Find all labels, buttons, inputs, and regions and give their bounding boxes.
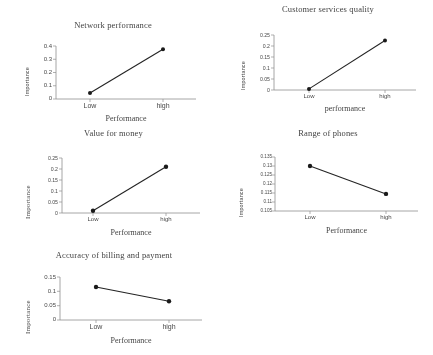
chart-title: Network performance	[18, 20, 208, 30]
series-line	[310, 166, 386, 194]
y-tick-label: 0.125	[242, 173, 272, 178]
x-tick-label-low: Low	[72, 102, 108, 109]
data-point	[383, 39, 387, 43]
y-tick-label: 0	[28, 316, 56, 322]
chart-panel-range-of-phones: Range of phones Importance 0.135 0.13 0.…	[228, 128, 428, 243]
data-point	[94, 285, 98, 289]
x-axis-label: Performance	[275, 226, 418, 235]
chart-title: Customer services quality	[228, 4, 428, 14]
series-line	[90, 49, 163, 93]
y-tick-label: 0.1	[30, 82, 52, 88]
y-tick-label: 0.1	[28, 288, 56, 294]
x-axis-label: Performance	[62, 228, 200, 237]
chart-panel-value-for-money: Value for money Importance 0.25 0.2 0.15…	[16, 128, 211, 243]
y-tick-label: 0	[30, 95, 52, 101]
chart-panel-accuracy-of-billing-and-payment: Accuracy of billing and payment Importan…	[14, 250, 214, 355]
y-tick-label: 0.15	[28, 274, 56, 280]
y-tick-label: 0.25	[244, 33, 270, 38]
data-point	[88, 91, 92, 95]
y-tick-label: 0.05	[32, 200, 58, 205]
y-tick-label: 0.3	[30, 56, 52, 62]
series-line	[96, 287, 169, 301]
y-tick-label: 0.105	[242, 209, 272, 214]
x-axis-label: performance	[274, 104, 416, 113]
y-tick-label: 0.05	[28, 302, 56, 308]
series-line	[309, 41, 385, 89]
data-point	[307, 87, 311, 91]
y-tick-label: 0.2	[244, 44, 270, 49]
y-tick-label: 0	[32, 211, 58, 216]
y-axis-label: Importance	[24, 185, 32, 219]
data-point	[164, 165, 168, 169]
y-tick-label: 0.15	[32, 178, 58, 183]
y-tick-label: 0.1	[244, 66, 270, 71]
x-tick-label-high: high	[149, 216, 183, 222]
y-tick-label: 0.4	[30, 43, 52, 49]
chart-title: Range of phones	[228, 128, 428, 138]
y-tick-label: 0.11	[242, 200, 272, 205]
x-tick-label-low: Low	[292, 93, 326, 99]
y-tick-label: 0.15	[244, 55, 270, 60]
x-tick-label-low: Low	[78, 323, 114, 330]
data-point	[167, 299, 171, 303]
y-tick-label: 0.1	[32, 189, 58, 194]
y-tick-label: 0.12	[242, 182, 272, 187]
data-point	[91, 209, 95, 213]
y-tick-label: 0.05	[244, 77, 270, 82]
y-tick-label: 0.2	[32, 167, 58, 172]
data-point	[161, 47, 165, 51]
data-point	[384, 192, 388, 196]
chart-panel-network-performance: Network performance Importance 0.4 0.3 0…	[18, 20, 208, 125]
y-tick-label: 0.13	[242, 164, 272, 169]
x-tick-label-high: high	[151, 323, 187, 330]
chart-panel-customer-services-quality: Customer services quality Importance 0.2…	[228, 4, 428, 124]
y-tick-label: 0.135	[242, 155, 272, 160]
series-line	[93, 167, 166, 211]
x-axis-label: Performance	[56, 114, 196, 123]
x-tick-label-low: Low	[293, 214, 327, 220]
x-tick-label-high: high	[145, 102, 181, 109]
x-tick-label-high: high	[369, 214, 403, 220]
x-tick-label-low: Low	[76, 216, 110, 222]
chart-title: Accuracy of billing and payment	[14, 250, 214, 260]
y-tick-label: 0.25	[32, 156, 58, 161]
x-tick-label-high: high	[368, 93, 402, 99]
y-tick-label: 0.115	[242, 191, 272, 196]
figure-page: Network performance Importance 0.4 0.3 0…	[0, 0, 433, 355]
y-tick-label: 0.2	[30, 69, 52, 75]
y-tick-label: 0	[244, 88, 270, 93]
x-axis-label: Performance	[60, 336, 202, 345]
chart-title: Value for money	[16, 128, 211, 138]
data-point	[308, 164, 312, 168]
